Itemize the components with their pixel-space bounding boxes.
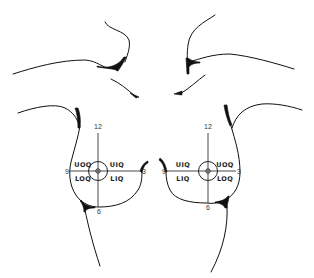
right-flank-line: [211, 206, 227, 272]
right-clock-9: 9: [162, 168, 166, 175]
right-breast-figure: 12 9 3 6 UIQ UOQ LIQ LOQ: [159, 104, 302, 272]
left-clock-3: 3: [142, 168, 146, 175]
right-clock-3: 3: [237, 168, 241, 175]
right-quadrant-upper-inner: UIQ: [176, 161, 190, 169]
left-flank-line: [85, 210, 100, 266]
right-clock-12: 12: [204, 123, 212, 130]
left-breast-figure: 12 9 3 6 UOQ UIQ LOQ LIQ: [18, 106, 148, 266]
left-torso-shoulder: [18, 106, 79, 125]
left-pectoral-tip: [130, 93, 139, 98]
left-quadrant-upper-outer: UOQ: [74, 161, 92, 169]
upper-view-right: [174, 15, 294, 95]
left-clock-9: 9: [65, 168, 69, 175]
left-clock-6: 6: [97, 208, 101, 215]
right-quadrant-lower-outer: LOQ: [217, 175, 233, 183]
right-clock-6: 6: [206, 204, 210, 211]
right-quadrant-upper-outer: UOQ: [216, 161, 234, 169]
right-axilla-mark: [224, 105, 232, 126]
left-arm-outline: [105, 22, 129, 62]
right-pectoral-tip: [174, 91, 182, 95]
left-quadrant-lower-inner: LIQ: [110, 175, 123, 183]
left-shoulder-outline: [13, 58, 125, 74]
left-axilla-crease: [97, 57, 126, 71]
right-arm-outline: [187, 15, 215, 62]
left-quadrant-upper-inner: UIQ: [110, 161, 124, 169]
left-clock-12: 12: [94, 123, 102, 130]
right-quadrant-lower-inner: LIQ: [176, 175, 189, 183]
left-quadrant-lower-outer: LOQ: [75, 175, 91, 183]
upper-view-left: [13, 22, 139, 98]
right-shoulder-outline: [189, 54, 294, 69]
right-torso-shoulder: [232, 104, 302, 128]
right-pectoral-line: [180, 75, 205, 94]
breast-quadrant-diagram: 12 9 3 6 UOQ UIQ LOQ LIQ 12 9 3 6 UIQ UO…: [0, 0, 314, 278]
